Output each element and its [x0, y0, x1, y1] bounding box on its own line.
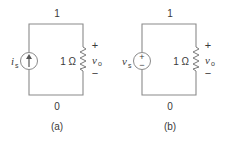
circuit-a-source-subscript: s — [15, 62, 19, 69]
circuit-b-source-minus: − — [139, 60, 144, 70]
circuit-a-caption: (a) — [51, 121, 63, 132]
circuit-b-output-minus: − — [205, 67, 211, 79]
circuit-a-source-symbol: i — [11, 55, 14, 67]
circuit-b-caption: (b) — [164, 121, 176, 132]
resistor-icon — [80, 47, 86, 71]
circuit-b-output-subscript: o — [211, 60, 215, 67]
circuit-b-source-subscript: s — [128, 62, 132, 69]
circuit-a-output-minus: − — [92, 67, 98, 79]
circuit-a-output-plus: + — [92, 39, 98, 51]
circuit-b: 1 0 (b) + − v s 1 Ω + v o − — [122, 8, 215, 132]
circuit-b-node-1-label: 1 — [167, 8, 173, 19]
circuit-a-output-symbol: v — [92, 54, 97, 66]
circuit-figure: 1 0 (a) i s 1 Ω + v o − 1 0 (b) + − v s — [0, 0, 228, 145]
circuit-a: 1 0 (a) i s 1 Ω + v o − — [11, 8, 102, 132]
resistor-icon — [193, 47, 199, 71]
circuit-b-output-plus: + — [205, 39, 211, 51]
circuit-a-resistor-label: 1 Ω — [60, 56, 76, 67]
circuit-b-node-0-label: 0 — [167, 101, 173, 112]
circuit-a-output-subscript: o — [98, 60, 102, 67]
circuit-a-node-0-label: 0 — [54, 101, 60, 112]
current-source-icon — [21, 53, 38, 70]
circuit-a-node-1-label: 1 — [54, 8, 60, 19]
circuit-b-output-symbol: v — [205, 54, 210, 66]
circuit-b-source-symbol: v — [122, 55, 127, 67]
circuit-b-resistor-label: 1 Ω — [173, 56, 189, 67]
